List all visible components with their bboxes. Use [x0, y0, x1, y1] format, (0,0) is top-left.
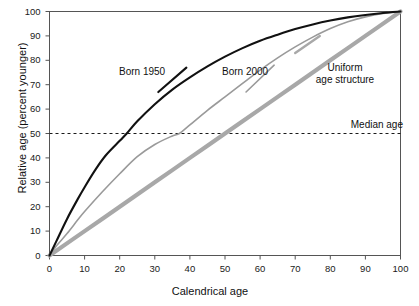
y-tick-label: 80 — [17, 54, 41, 65]
x-tick-label: 100 — [389, 263, 413, 274]
y-tick-label: 90 — [17, 30, 41, 41]
y-tick-label: 50 — [17, 128, 41, 139]
x-tick-label: 30 — [143, 263, 167, 274]
uniform-label-line2: age structure — [316, 74, 374, 85]
x-tick-label: 10 — [73, 263, 97, 274]
x-tick-label: 80 — [318, 263, 342, 274]
x-tick-label: 40 — [178, 263, 202, 274]
x-tick-label: 70 — [283, 263, 307, 274]
y-tick-label: 20 — [17, 201, 41, 212]
x-tick-label: 20 — [108, 263, 132, 274]
y-tick-label: 40 — [17, 152, 41, 163]
y-tick-label: 0 — [17, 250, 41, 261]
y-tick-label: 70 — [17, 79, 41, 90]
x-tick-label: 90 — [353, 263, 377, 274]
x-axis-title: Calendrical age — [110, 285, 310, 297]
x-tick-label: 50 — [213, 263, 237, 274]
x-tick-label: 60 — [248, 263, 272, 274]
y-tick-label: 100 — [17, 6, 41, 17]
series-label-born-1950: Born 1950 — [119, 66, 165, 77]
plot-canvas — [0, 0, 419, 306]
y-tick-label: 10 — [17, 225, 41, 236]
series-label-uniform: Uniform age structure — [303, 62, 387, 86]
data-series — [50, 12, 401, 256]
series-label-born-2000: Born 2000 — [222, 66, 268, 77]
chart-figure: Relative age (percent younger) Calendric… — [0, 0, 419, 306]
uniform-label-line1: Uniform — [327, 62, 362, 73]
x-tick-label: 0 — [38, 263, 62, 274]
y-tick-label: 60 — [17, 103, 41, 114]
y-tick-label: 30 — [17, 176, 41, 187]
median-age-label: Median age — [351, 119, 403, 130]
